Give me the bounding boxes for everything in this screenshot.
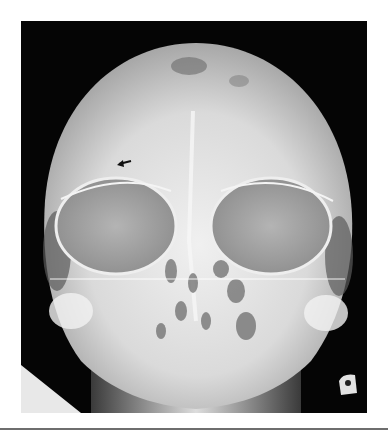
xray-figure (21, 21, 367, 413)
horizontal-rule (0, 428, 388, 430)
film-corner (21, 365, 81, 413)
skull-xray-image (21, 21, 367, 413)
